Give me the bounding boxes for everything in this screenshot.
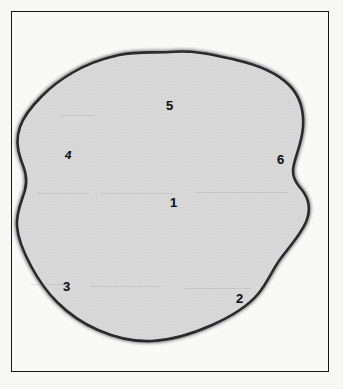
label-6: 6 <box>277 153 284 166</box>
label-2: 2 <box>236 292 243 305</box>
figure-root: 123456 <box>0 0 343 389</box>
figure-frame-border <box>11 11 329 372</box>
label-1: 1 <box>170 196 177 209</box>
label-5: 5 <box>166 99 173 112</box>
label-3: 3 <box>63 280 70 293</box>
label-4: 4 <box>65 150 72 162</box>
